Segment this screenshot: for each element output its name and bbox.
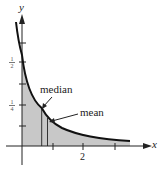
x-tick-label-2: 2 — [80, 152, 85, 162]
x-axis-arrow-icon — [143, 143, 152, 149]
fraction-denominator: 4 — [11, 106, 14, 112]
y-axis-arrow-icon — [19, 14, 25, 24]
median-label: median — [40, 84, 72, 95]
y-tick-label-half: 1 2 — [8, 56, 16, 69]
y-tick-label-quarter: 1 4 — [8, 99, 16, 112]
mean-label: mean — [80, 107, 104, 118]
x-axis-label: x — [152, 139, 157, 150]
fraction-numerator: 1 — [11, 56, 14, 62]
mean-arrow — [52, 114, 78, 121]
fraction-denominator: 2 — [11, 63, 14, 69]
density-figure — [0, 0, 161, 175]
y-axis-label: y — [19, 2, 24, 13]
fraction-numerator: 1 — [11, 99, 14, 105]
